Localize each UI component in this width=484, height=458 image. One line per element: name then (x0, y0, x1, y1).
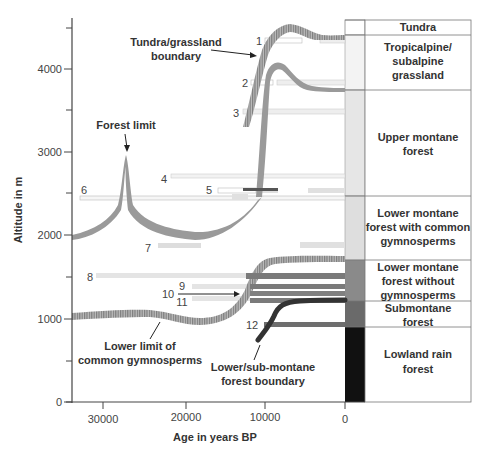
x-tick-20000: 20000 (171, 411, 202, 423)
annotations: Tundra/grassland boundary Forest limit L… (78, 36, 315, 387)
record-9: 9 (179, 280, 185, 292)
zone-grassland-l3: grassland (392, 69, 444, 81)
record-11: 11 (176, 296, 187, 308)
annotation-lower-submontane-l2: forest boundary (221, 375, 306, 387)
record-3: 3 (233, 107, 239, 119)
zone-grassland-l2: subalpine (392, 55, 443, 67)
record-1: 1 (256, 35, 262, 47)
zone-submontane-l2: forest (403, 316, 434, 328)
zone-lower-without-l1: Lower montane (377, 261, 458, 273)
zone-color-column (345, 20, 365, 402)
record-12: 12 (246, 319, 258, 331)
zone-upper-l2: forest (403, 145, 434, 157)
y-tick-1000: 1000 (38, 313, 62, 325)
y-tick-0: 0 (56, 396, 62, 408)
zone-tundra: Tundra (400, 21, 437, 33)
zone-lower-without-l3: gymnosperms (380, 289, 455, 301)
zone-lower-without-l2: forest without (382, 275, 455, 287)
zone-submontane-l1: Submontane (385, 302, 452, 314)
record-5: 5 (206, 184, 212, 196)
annotation-tundra-boundary-l1: Tundra/grassland (130, 36, 221, 48)
annotation-gymno-limit-l2: common gymnosperms (78, 354, 202, 366)
annotation-tundra-boundary-l2: boundary (151, 50, 202, 62)
record-10: 10 (162, 288, 174, 300)
gymnosperm-limit-band (72, 256, 345, 325)
x-tick-10000: 10000 (250, 411, 281, 423)
record-2: 2 (242, 77, 248, 89)
zone-upper-l1: Upper montane (378, 131, 459, 143)
zone-lower-with-l1: Lower montane (377, 207, 458, 219)
annotation-gymno-limit-l1: Lower limit of (104, 340, 176, 352)
zone-lower-with-l3: gymnosperms (380, 235, 455, 247)
y-axis: 4000 3000 2000 1000 0 Altitude in m (12, 18, 72, 408)
annotation-forest-limit: Forest limit (96, 119, 156, 131)
x-tick-30000: 30000 (88, 413, 119, 425)
zone-lowland-l2: forest (403, 363, 434, 375)
zone-lower-with-l2: forest with common (366, 221, 471, 233)
y-axis-title: Altitude in m (12, 176, 24, 243)
annotation-lower-submontane-l1: Lower/sub-montane (211, 361, 316, 373)
record-8: 8 (87, 271, 93, 283)
lower-submontane-boundary (258, 300, 345, 340)
record-6: 6 (81, 184, 87, 196)
record-4: 4 (161, 173, 167, 185)
zone-lowland-l1: Lowland rain (384, 348, 452, 360)
x-tick-0: 0 (342, 413, 348, 425)
altitude-vegetation-chart: Tundra Tropicalpine/ subalpine grassland… (0, 0, 484, 458)
y-tick-3000: 3000 (38, 146, 62, 158)
y-tick-4000: 4000 (38, 63, 62, 75)
x-axis: 30000 20000 10000 0 Age in years BP (66, 402, 365, 443)
y-tick-2000: 2000 (38, 229, 62, 241)
record-7: 7 (145, 242, 151, 254)
zone-grassland-l1: Tropicalpine/ (384, 41, 452, 53)
x-axis-title: Age in years BP (173, 431, 257, 443)
